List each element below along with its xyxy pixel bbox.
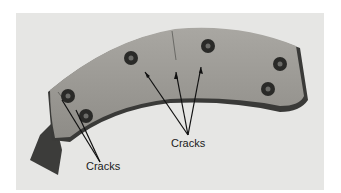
brake-shoe-photo [16,13,324,190]
cracks-label-left: Cracks [86,160,120,172]
cracks-label-center: Cracks [171,137,205,149]
brake-shoe-illustration [16,13,324,190]
